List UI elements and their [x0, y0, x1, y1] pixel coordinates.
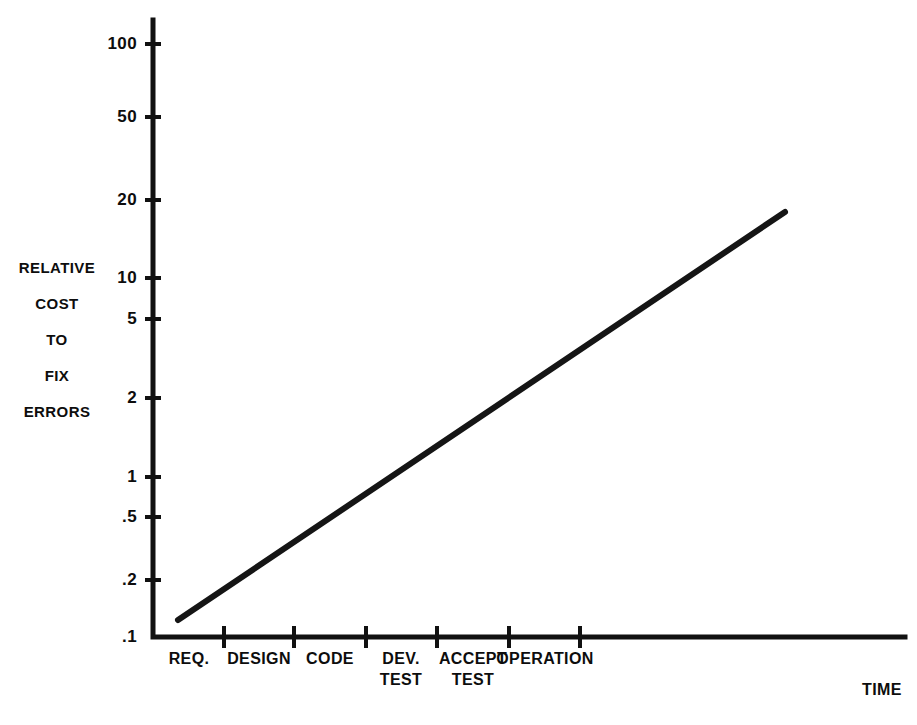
y-tick-label-3: 10: [95, 268, 137, 288]
y-tick-label-9: .1: [95, 627, 137, 647]
y-axis-title: RELATIVECOSTTOFIXERRORS: [19, 250, 95, 430]
x-category-label-3: DEV.TEST: [380, 648, 423, 690]
axes-group: [153, 20, 905, 637]
y-tick-label-5: 2: [95, 388, 137, 408]
chart-figure: 100502010521.5.2.1 REQ.DESIGNCODEDEV.TES…: [0, 0, 917, 725]
axis-lines: [153, 20, 905, 637]
x-category-label-0: REQ.: [169, 648, 210, 669]
cost-curve-line: [178, 212, 785, 620]
y-tick-label-8: .2: [95, 570, 137, 590]
y-tick-label-6: 1: [95, 467, 137, 487]
x-axis-title: TIME: [862, 681, 902, 699]
chart-canvas: [0, 0, 917, 725]
y-tick-label-7: .5: [95, 507, 137, 527]
data-series-group: [178, 212, 785, 620]
y-tick-label-0: 100: [95, 34, 137, 54]
x-category-label-5: OPERATION: [496, 648, 594, 669]
y-tick-label-1: 50: [95, 107, 137, 127]
y-tick-label-2: 20: [95, 190, 137, 210]
y-tick-label-4: 5: [95, 309, 137, 329]
x-category-label-1: DESIGN: [227, 648, 291, 669]
x-category-label-2: CODE: [306, 648, 354, 669]
